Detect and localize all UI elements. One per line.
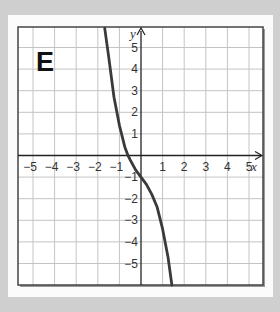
x-tick-label: −5 — [23, 160, 37, 174]
x-tick-label: 4 — [224, 160, 231, 174]
y-tick-label: 1 — [131, 127, 138, 141]
function-graph: −5−4−3−2−11234554321−1−2−3−4−5xyE — [0, 0, 280, 312]
y-tick-label: −5 — [124, 257, 138, 271]
y-tick-label: 5 — [131, 41, 138, 55]
x-tick-label: −3 — [66, 160, 80, 174]
x-tick-label: −4 — [45, 160, 59, 174]
y-axis-label: y — [128, 26, 136, 41]
x-tick-label: −2 — [88, 160, 102, 174]
x-axis-label: x — [250, 159, 257, 174]
y-tick-label: −3 — [124, 213, 138, 227]
y-tick-label: 4 — [131, 62, 138, 76]
x-tick-label: 1 — [159, 160, 166, 174]
y-tick-label: 2 — [131, 105, 138, 119]
y-tick-label: −4 — [124, 235, 138, 249]
x-tick-label: 2 — [181, 160, 188, 174]
x-tick-label: −1 — [110, 160, 124, 174]
panel-label: E — [36, 47, 54, 77]
x-tick-label: 3 — [202, 160, 209, 174]
y-tick-label: −2 — [124, 192, 138, 206]
y-tick-label: 3 — [131, 84, 138, 98]
